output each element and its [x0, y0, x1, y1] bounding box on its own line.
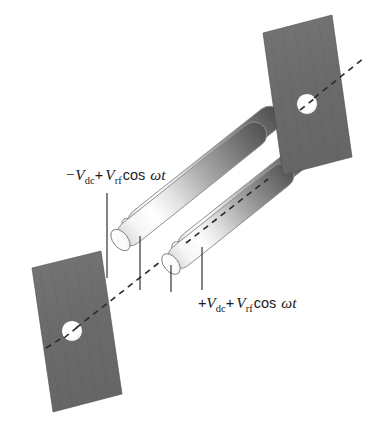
pos-omega: ω	[281, 294, 292, 311]
pos-plus: +	[226, 295, 234, 311]
neg-t: t	[161, 166, 166, 183]
quadrupole-figure: −Vdc+Vrfcosωt +Vdc+Vrfcosωt	[0, 0, 372, 426]
pos-dc-subscript: dc	[216, 303, 226, 314]
neg-rf-subscript: rf	[115, 175, 122, 186]
neg-omega: ω	[150, 166, 161, 183]
aperture-hole-top-right	[297, 94, 318, 115]
pos-cos: cos	[254, 295, 277, 311]
pos-sign: +	[198, 295, 206, 311]
diagram-canvas: −Vdc+Vrfcosωt +Vdc+Vrfcosωt	[0, 0, 372, 426]
neg-dc-subscript: dc	[85, 175, 95, 186]
neg-cos: cos	[123, 167, 146, 183]
pos-rf-subscript: rf	[246, 303, 253, 314]
pos-t: t	[292, 294, 297, 311]
neg-plus: +	[95, 167, 103, 183]
neg-sign-v: −	[65, 166, 75, 183]
